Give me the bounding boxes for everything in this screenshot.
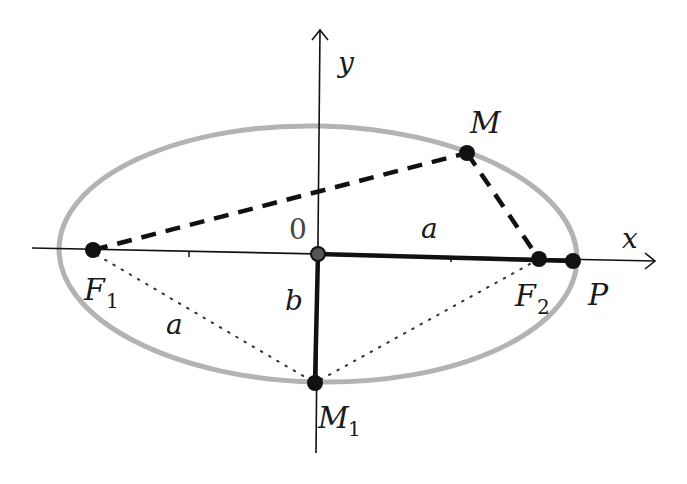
point-m: [459, 145, 475, 161]
svg-text:M: M: [317, 400, 350, 435]
point-f1: [85, 242, 101, 258]
semi-major-label-a: a: [421, 212, 438, 245]
x-axis-label: x: [622, 222, 638, 255]
point-m1: [307, 375, 323, 391]
point-m1-label: M 1: [317, 400, 361, 441]
svg-text:F: F: [83, 272, 106, 307]
semi-minor-segment: [315, 254, 318, 383]
point-m-label: M: [469, 105, 502, 140]
point-p: [565, 253, 581, 269]
ellipse-diagram: y x 0 M F 1 F 2 P M 1 a a b: [0, 0, 687, 484]
svg-text:F: F: [514, 278, 537, 313]
origin-label: 0: [289, 213, 307, 246]
focal-radius-label-a: a: [166, 308, 183, 341]
point-f2: [531, 251, 547, 267]
focal-radius-f1-m: [93, 153, 467, 250]
svg-text:2: 2: [537, 295, 550, 319]
point-origin: [311, 247, 325, 261]
dotted-f1-m1: [97, 255, 310, 380]
point-f2-label: F 2: [514, 278, 550, 319]
semi-minor-label-b: b: [285, 284, 303, 317]
dotted-f2-m1: [320, 264, 530, 380]
svg-text:1: 1: [348, 417, 361, 441]
y-axis-label: y: [336, 46, 355, 79]
svg-text:1: 1: [106, 289, 119, 313]
point-p-label: P: [587, 277, 609, 312]
point-f1-label: F 1: [83, 272, 119, 313]
